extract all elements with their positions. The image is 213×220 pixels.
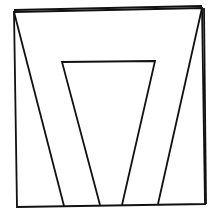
inner-trapezoid [62,61,155,205]
trapezoid-frame-diagram [0,0,213,220]
left-diagonal-line [14,12,64,206]
right-diagonal-line [158,8,202,204]
outer-frame [14,8,205,207]
